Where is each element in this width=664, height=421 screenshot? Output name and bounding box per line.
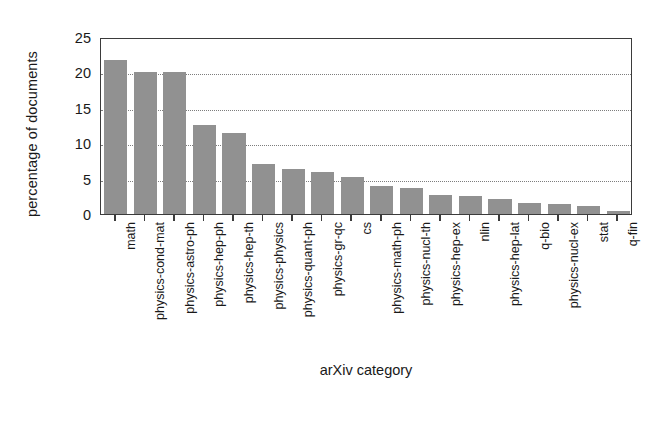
bar [488, 199, 511, 214]
x-tick-label-text: cs [360, 222, 374, 235]
bar [222, 133, 245, 214]
y-tick-label: 25 [51, 31, 91, 46]
x-tick [114, 215, 116, 221]
x-tick-label-text: physics-hep-ph [212, 222, 226, 307]
x-tick [498, 215, 500, 221]
x-tick-label: q-fin [622, 222, 636, 246]
x-tick-label-text: physics-math-ph [390, 222, 404, 314]
x-tick-label-text: physics-astro-ph [183, 222, 197, 314]
x-tick [439, 215, 441, 221]
x-tick-label-text: q-bio [538, 222, 552, 250]
x-tick [469, 215, 471, 221]
y-tick-label: 20 [51, 66, 91, 81]
x-tick-label: physics-hep-ex [445, 222, 459, 306]
bar [282, 169, 305, 214]
y-tick-label: 15 [51, 102, 91, 117]
x-tick-label-text: physics-hep-lat [508, 222, 522, 306]
bar-chart-figure: percentage of documents 0510152025 mathp… [0, 0, 664, 421]
bar [518, 203, 541, 214]
bar [400, 188, 423, 214]
y-tick-label: 0 [51, 208, 91, 223]
x-tick-label-text: physics-physics [272, 222, 286, 310]
x-tick-label: physics-hep-th [238, 222, 252, 303]
x-tick-label: cs [356, 222, 370, 235]
bar [134, 72, 157, 214]
x-tick-label: nlin [474, 222, 488, 241]
x-tick-label: physics-quant-ph [297, 222, 311, 317]
x-tick [587, 215, 589, 221]
x-tick-label-text: physics-nucl-ex [567, 222, 581, 308]
x-tick-label-text: physics-cond-mat [153, 222, 167, 320]
bar [548, 204, 571, 214]
x-tick [321, 215, 323, 221]
x-tick [144, 215, 146, 221]
bar [252, 164, 275, 214]
bar [370, 186, 393, 214]
x-tick [262, 215, 264, 221]
bar [459, 196, 482, 214]
bar [429, 195, 452, 214]
x-tick [203, 215, 205, 221]
x-tick-label-text: physics-nucl-th [419, 222, 433, 305]
bar [311, 172, 334, 214]
bar [577, 206, 600, 214]
x-tick-label: physics-hep-ph [208, 222, 222, 307]
x-tick-label: physics-cond-mat [149, 222, 163, 320]
x-axis-title: arXiv category [100, 362, 632, 378]
x-tick [528, 215, 530, 221]
x-tick [350, 215, 352, 221]
x-tick-label: physics-nucl-th [415, 222, 429, 305]
bar [341, 177, 364, 214]
x-tick-label: physics-math-ph [386, 222, 400, 314]
x-tick-label: physics-gr-qc [327, 222, 341, 296]
x-tick [410, 215, 412, 221]
x-tick-label: physics-physics [268, 222, 282, 310]
x-tick-label-text: physics-hep-ex [449, 222, 463, 306]
bar [104, 60, 127, 214]
x-axis-tick-labels: mathphysics-cond-matphysics-astro-phphys… [100, 222, 632, 352]
x-tick-label: physics-astro-ph [179, 222, 193, 314]
bar [607, 211, 630, 214]
y-tick-label: 5 [51, 172, 91, 187]
bar [193, 125, 216, 214]
x-tick-label: stat [593, 222, 607, 242]
x-tick-label-text: nlin [478, 222, 492, 241]
plot-area [100, 38, 632, 215]
x-tick [380, 215, 382, 221]
x-tick-label-text: q-fin [626, 222, 640, 246]
bar [163, 72, 186, 214]
x-tick [616, 215, 618, 221]
y-tick-label: 10 [51, 137, 91, 152]
x-tick-label: physics-hep-lat [504, 222, 518, 306]
x-tick [291, 215, 293, 221]
x-tick-label: q-bio [534, 222, 548, 250]
x-tick-label-text: physics-gr-qc [331, 222, 345, 296]
x-tick [557, 215, 559, 221]
x-tick-label: physics-nucl-ex [563, 222, 577, 308]
x-tick-label: math [120, 222, 134, 250]
x-tick-label-text: physics-quant-ph [301, 222, 315, 317]
x-tick [232, 215, 234, 221]
x-tick [173, 215, 175, 221]
x-tick-label-text: math [124, 222, 138, 250]
x-tick-label-text: physics-hep-th [242, 222, 256, 303]
bar-series [101, 39, 631, 214]
y-axis-tick-labels: 0510152025 [0, 0, 100, 421]
x-tick-label-text: stat [597, 222, 611, 242]
